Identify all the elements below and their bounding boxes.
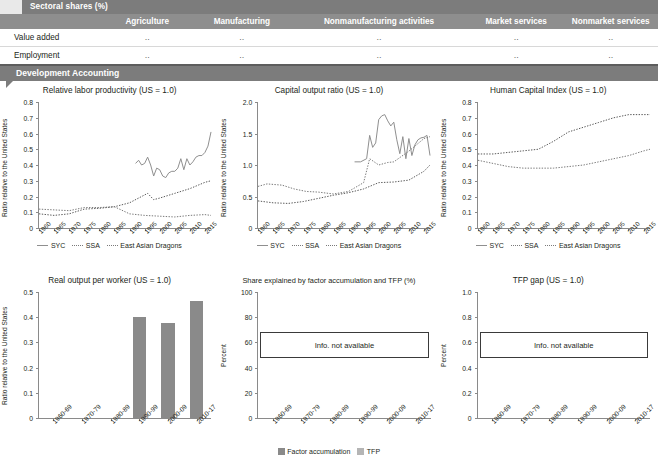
info-not-available-box: Info. not available	[260, 332, 428, 358]
charts-row-2: Real output per worker (US = 1.0) Ratio …	[0, 274, 658, 464]
y-tick-label: 0.5	[24, 289, 33, 296]
y-tick-mark	[36, 342, 39, 343]
y-tick-label: 0	[249, 225, 253, 232]
y-tick-label: 0.4	[24, 314, 33, 321]
series-line	[355, 115, 430, 162]
y-axis-label: Ratio relative to the United States	[1, 104, 8, 232]
column-header-nonmarket-services: Nonmarket services	[563, 14, 658, 29]
row-label-value-added: Value added	[0, 29, 100, 46]
y-axis-label: Ratio relative to the United States	[1, 300, 8, 412]
y-axis-ticks: 00.10.20.30.40.50.60.70.8	[14, 102, 36, 228]
series-line	[478, 149, 650, 168]
chart-title: TFP gap (US = 1.0)	[439, 274, 658, 288]
y-tick-mark	[475, 342, 478, 343]
y-tick-mark	[255, 418, 258, 419]
x-axis-ticks: 1960196519701975198019851990199520002005…	[38, 230, 211, 270]
x-axis-ticks: 1960-691970-791980-891990-992000-092010-…	[477, 420, 650, 460]
bar	[161, 323, 174, 418]
column-header-market-services: Market services	[469, 14, 564, 29]
y-axis-ticks: 020406080100	[233, 292, 255, 418]
plot-area	[38, 292, 211, 419]
y-tick-label: 0.1	[462, 209, 471, 216]
y-tick-mark	[475, 393, 478, 394]
column-header-agriculture: Agriculture	[100, 14, 195, 29]
y-axis-ticks: 00.51.01.52.0	[233, 102, 255, 228]
y-tick-mark	[36, 368, 39, 369]
y-axis-label: Percent	[220, 300, 227, 412]
x-axis-ticks: 1960196519701975198019851990199520002005…	[477, 230, 650, 270]
cell-employment-market-services: ..	[469, 47, 564, 64]
development-accounting-label: Development Accounting	[16, 68, 119, 78]
y-tick-mark	[255, 292, 258, 293]
series-line	[258, 165, 430, 203]
y-tick-label: 20	[245, 389, 253, 396]
y-tick-label: 0	[249, 415, 253, 422]
y-tick-label: 60	[245, 339, 253, 346]
chart-tfp-gap: TFP gap (US = 1.0) Percent 00.20.40.60.8…	[439, 274, 658, 464]
sectoral-shares-title: Sectoral shares (%)	[0, 0, 658, 14]
y-tick-mark	[36, 393, 39, 394]
x-axis-ticks: 1960-691970-791980-891990-992000-092010-…	[38, 420, 211, 460]
chart-title: Share explained by factor accumulation a…	[219, 274, 438, 288]
y-axis-ticks: 00.20.40.60.81.0	[453, 292, 475, 418]
y-tick-label: 0.2	[24, 364, 33, 371]
y-tick-label: 0	[468, 415, 472, 422]
cell-value-added-nonmarket-services: ..	[563, 29, 658, 46]
bar	[190, 301, 203, 418]
y-axis-label: Percent	[440, 300, 447, 412]
charts-row-1: Relative labor productivity (US = 1.0) R…	[0, 84, 658, 274]
y-tick-label: 0.8	[462, 99, 471, 106]
y-tick-label: 0.6	[24, 130, 33, 137]
chart-title: Real output per worker (US = 1.0)	[0, 274, 219, 288]
y-tick-label: 100	[241, 289, 252, 296]
plot-area	[477, 102, 650, 229]
cell-value-added-agriculture: ..	[100, 29, 195, 46]
y-tick-label: 0.5	[243, 193, 252, 200]
y-tick-label: 0.2	[462, 389, 471, 396]
y-tick-mark	[255, 393, 258, 394]
y-tick-label: 80	[245, 314, 253, 321]
table-row: Value added .. .. .. .. ..	[0, 29, 658, 47]
y-tick-mark	[475, 317, 478, 318]
y-tick-mark	[475, 418, 478, 419]
charts-grid: Relative labor productivity (US = 1.0) R…	[0, 84, 658, 464]
y-tick-mark	[475, 368, 478, 369]
y-tick-mark	[255, 342, 258, 343]
cell-employment-nonmarket-services: ..	[563, 47, 658, 64]
y-tick-label: 0.3	[24, 339, 33, 346]
y-axis-label: Ratio relative to the United States	[220, 104, 227, 232]
chart-title: Human Capital Index (US = 1.0)	[439, 84, 658, 98]
y-tick-label: 2.0	[243, 99, 252, 106]
y-tick-label: 40	[245, 364, 253, 371]
y-tick-label: 0.6	[462, 339, 471, 346]
y-tick-label: 0	[29, 225, 33, 232]
table-column-headers: Agriculture Manufacturing Nonmanufacturi…	[0, 14, 658, 29]
series-line	[39, 207, 211, 217]
y-tick-label: 0.4	[462, 162, 471, 169]
y-tick-label: 0	[468, 225, 472, 232]
y-tick-label: 0	[29, 415, 33, 422]
chart-human-capital-index: Human Capital Index (US = 1.0) Ratio rel…	[439, 84, 658, 274]
series-line	[478, 115, 650, 154]
series-layer	[39, 102, 211, 228]
cell-employment-nonmanufacturing: ..	[289, 47, 469, 64]
cell-employment-agriculture: ..	[100, 47, 195, 64]
y-tick-label: 0.6	[462, 130, 471, 137]
column-header-nonmanufacturing-activities: Nonmanufacturing activities	[289, 14, 469, 29]
y-tick-label: 1.0	[462, 289, 471, 296]
y-tick-label: 0.3	[462, 177, 471, 184]
plot-area	[257, 102, 430, 229]
series-layer	[258, 102, 430, 228]
y-tick-mark	[36, 317, 39, 318]
y-tick-label: 0.1	[24, 209, 33, 216]
y-tick-label: 0.4	[24, 162, 33, 169]
row-label-employment: Employment	[0, 47, 100, 64]
chart-title: Capital output ratio (US = 1.0)	[219, 84, 438, 98]
y-axis-label: Ratio relative to the United States	[440, 104, 447, 232]
y-tick-label: 0.2	[462, 193, 471, 200]
chart-relative-labor-productivity: Relative labor productivity (US = 1.0) R…	[0, 84, 219, 274]
y-tick-label: 1.5	[243, 130, 252, 137]
y-tick-mark	[255, 317, 258, 318]
y-tick-label: 0.2	[24, 193, 33, 200]
development-accounting-title: Development Accounting	[0, 66, 658, 81]
